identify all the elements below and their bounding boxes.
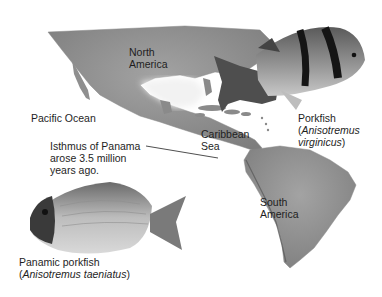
north-america-label-line1: North <box>129 46 168 58</box>
porkfish-scientific-name-line2: virginicus) <box>298 136 360 148</box>
isthmus-annotation-line3: years ago. <box>50 164 140 176</box>
panamic-porkfish-binomial: Anisotremus taeniatus <box>23 268 127 280</box>
panamic-porkfish-common-name: Panamic porkfish <box>19 256 130 268</box>
south-america-label: South America <box>260 196 299 220</box>
south-america-label-line1: South <box>260 196 299 208</box>
south-america-label-line2: America <box>260 208 299 220</box>
caribbean-sea-label: Caribbean Sea <box>201 128 249 152</box>
north-america-label: North America <box>129 46 168 70</box>
caribbean-sea-label-line1: Caribbean <box>201 128 249 140</box>
caribbean-sea-label-line2: Sea <box>201 140 249 152</box>
panamic-porkfish-caption: Panamic porkfish (Anisotremus taeniatus) <box>19 256 130 280</box>
panamic-porkfish-scientific-name: (Anisotremus taeniatus) <box>19 268 130 280</box>
porkfish-genus: Anisotremus <box>302 124 360 136</box>
isthmus-annotation-line1: Isthmus of Panama <box>50 140 140 152</box>
panamic-porkfish-image <box>30 182 186 254</box>
porkfish-common-name: Porkfish <box>298 112 360 124</box>
isthmus-annotation: Isthmus of Panama arose 3.5 million year… <box>50 140 140 176</box>
isthmus-annotation-line2: arose 3.5 million <box>50 152 140 164</box>
pacific-ocean-label: Pacific Ocean <box>31 112 96 124</box>
isthmus-panama-figure: North America Pacific Ocean Caribbean Se… <box>0 0 382 297</box>
porkfish-scientific-name-line1: (Anisotremus <box>298 124 360 136</box>
porkfish-species: virginicus <box>298 136 342 148</box>
north-america-label-line2: America <box>129 58 168 70</box>
porkfish-caption: Porkfish (Anisotremus virginicus) <box>298 112 360 148</box>
